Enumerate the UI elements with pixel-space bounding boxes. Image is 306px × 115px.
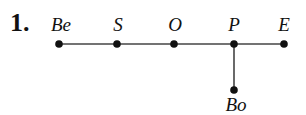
node-o	[170, 40, 178, 48]
node-s	[113, 40, 121, 48]
label-p: P	[228, 14, 240, 36]
node-be	[55, 40, 63, 48]
label-bo: Bo	[225, 94, 246, 115]
label-e: E	[278, 14, 290, 36]
label-o: O	[168, 14, 182, 36]
label-s: S	[113, 14, 123, 36]
node-bo	[230, 86, 238, 94]
node-e	[280, 40, 288, 48]
tree-diagram	[0, 0, 306, 115]
node-p	[230, 40, 238, 48]
label-be: Be	[51, 14, 71, 36]
